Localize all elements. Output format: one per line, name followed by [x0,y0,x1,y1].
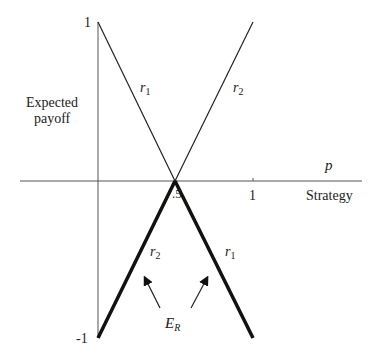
label-er: ER [164,315,180,333]
y-axis-label-line1: Expected [26,95,78,110]
x-tick-label-mid: .5 [172,186,182,201]
x-tick-label-one: 1 [249,188,256,203]
payoff-chart: 1 -1 .5 1 p Strategy Expected payoff r1 … [0,0,382,360]
x-axis-label: Strategy [306,188,353,203]
y-axis-label-line2: payoff [34,111,71,126]
label-r2-lower: r2 [150,244,160,261]
line-r2-lower-bold [98,181,175,338]
line-r1-upper [98,22,175,181]
line-r2-upper [175,22,253,181]
y-tick-label-top: 1 [84,15,91,30]
arrow-left [146,280,160,308]
x-variable-label: p [324,157,333,173]
label-r1-upper: r1 [140,80,150,97]
line-r1-lower-bold [175,181,253,338]
label-r2-upper: r2 [233,80,243,97]
y-tick-label-bottom: -1 [76,331,88,346]
label-r1-lower: r1 [225,244,235,261]
arrow-right [191,280,206,308]
